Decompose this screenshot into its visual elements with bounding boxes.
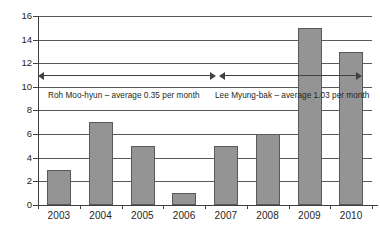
y-axis	[38, 16, 39, 205]
y-tick-label-0: 0	[0, 200, 32, 210]
y-tick-label-16: 16	[0, 11, 32, 21]
x-tick-label-2004: 2004	[78, 209, 124, 223]
bar-2004	[89, 122, 113, 205]
roh-period-arrow	[38, 71, 216, 80]
arrow-head-right-icon	[210, 72, 216, 80]
bar-2007	[214, 146, 238, 205]
lee-period-arrow	[219, 71, 362, 80]
plot-area	[38, 16, 372, 205]
x-tick-label-2008: 2008	[245, 209, 291, 223]
lee-period-label: Lee Myung-bak – average 1.03 per month	[215, 91, 369, 101]
bar-2006	[172, 193, 196, 205]
y-tick-label-12: 12	[0, 58, 32, 68]
gridline-8	[38, 110, 372, 111]
bar-2009	[298, 28, 322, 205]
x-tick-label-2005: 2005	[119, 209, 165, 223]
y-tick-label-10: 10	[0, 82, 32, 92]
roh-period-label: Roh Moo-hyun – average 0.35 per month	[48, 91, 200, 101]
x-tick-label-2010: 2010	[328, 209, 374, 223]
x-tick-label-2007: 2007	[203, 209, 249, 223]
gridline-10	[38, 87, 372, 88]
arrow-shaft	[223, 75, 358, 76]
y-tick-label-2: 2	[0, 176, 32, 186]
bar-2005	[131, 146, 155, 205]
arrow-shaft	[42, 75, 212, 76]
gridline-12	[38, 63, 372, 64]
x-tick-label-2009: 2009	[286, 209, 332, 223]
y-tick-label-4: 4	[0, 153, 32, 163]
bar-2008	[256, 134, 280, 205]
x-axis	[38, 205, 378, 206]
y-tick-label-14: 14	[0, 35, 32, 45]
x-tick-label-2006: 2006	[161, 209, 207, 223]
y-tick-label-6: 6	[0, 129, 32, 139]
y-tick-label-8: 8	[0, 105, 32, 115]
bar-chart: 16 14 12 10 8 6 4 2 0	[0, 0, 380, 227]
x-tick-label-2003: 2003	[36, 209, 82, 223]
gridline-14	[38, 40, 372, 41]
arrow-head-right-icon	[356, 72, 362, 80]
gridline-16	[38, 16, 372, 17]
bar-2003	[47, 170, 71, 205]
